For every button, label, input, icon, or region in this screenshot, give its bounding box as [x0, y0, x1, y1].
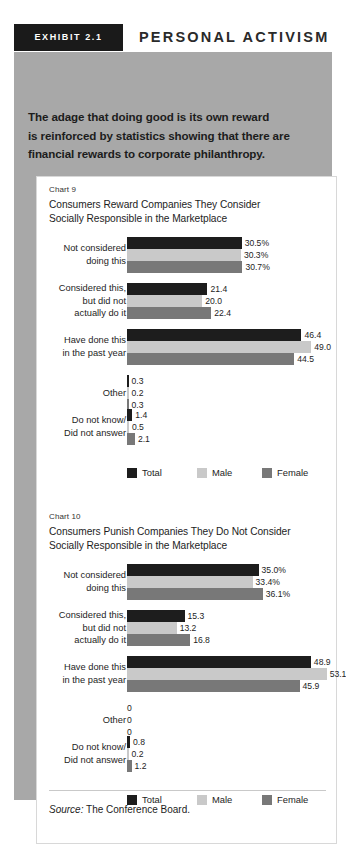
bar-value-label: 35.0% [259, 564, 286, 576]
chart-title-line-2: Socially Responsible in the Marketplace [49, 539, 227, 554]
category-label-line: but did not [0, 295, 126, 308]
bar-value-label: 44.5 [294, 353, 314, 365]
bar-total [127, 564, 259, 576]
category-label: Do not know/Did not answer [0, 414, 126, 439]
bar-total [127, 283, 207, 295]
bar-male [127, 295, 202, 307]
source-divider [49, 790, 326, 791]
intro-text: The adage that doing good is its own rew… [28, 108, 328, 170]
category-label-line: Do not know/ [0, 741, 126, 754]
chart-title-line-2: Socially Responsible in the Marketplace [49, 212, 227, 227]
category-label-line: Considered this, [0, 282, 126, 295]
category-label: Not considereddoing this [0, 242, 126, 267]
bar-value-label: 22.4 [211, 307, 231, 319]
bar-value-label: 30.5% [242, 237, 269, 249]
category-label-line: actually do it [0, 307, 126, 320]
bar-value-label: 30.3% [241, 249, 268, 261]
category-label: Have done thisin the past year [0, 661, 126, 686]
category-label-line: in the past year [0, 347, 126, 360]
bar-value-label: 48.9 [311, 656, 331, 668]
bar-value-label: 30.7% [242, 261, 269, 273]
chart-title-line-1: Consumers Reward Companies They Consider [49, 198, 260, 213]
bar-total [127, 656, 311, 668]
legend-label: Total [142, 467, 162, 479]
legend-swatch-icon [262, 468, 272, 478]
bar-value-label: 46.4 [301, 329, 321, 341]
bar-female [127, 433, 135, 445]
bar-value-label: 1.4 [132, 409, 147, 421]
bar-value-label: 0 [127, 702, 132, 714]
bar-value-label: 16.8 [190, 634, 210, 646]
bar-value-label: 0 [127, 714, 132, 726]
bar-value-label: 1.2 [132, 760, 147, 772]
legend-label: Female [277, 467, 308, 479]
legend-label: Male [212, 794, 232, 806]
category-label-line: actually do it [0, 634, 126, 647]
category-label-line: Not considered [0, 242, 126, 255]
chart-title-line-1: Consumers Punish Companies They Do Not C… [49, 525, 291, 540]
category-label: Considered this,but did notactually do i… [0, 282, 126, 320]
bar-male [127, 668, 327, 680]
intro-line-3: financial rewards to corporate philanthr… [28, 145, 328, 164]
category-label-line: Do not know/ [0, 414, 126, 427]
bar-value-label: 36.1% [263, 588, 290, 600]
bar-value-label: 0.5 [129, 421, 144, 433]
source-text: The Conference Board. [83, 804, 190, 815]
chart-number: Chart 10 [49, 512, 80, 521]
bar-value-label: 15.3 [185, 610, 205, 622]
legend-swatch-icon [262, 795, 272, 805]
category-label: Do not know/Did not answer [0, 741, 126, 766]
chart-legend: TotalMaleFemale [37, 467, 338, 479]
category-label-line: in the past year [0, 674, 126, 687]
category-label-line: Have done this [0, 334, 126, 347]
bar-female [127, 261, 242, 273]
category-label-line: Not considered [0, 569, 126, 582]
bar-total [127, 329, 301, 341]
exhibit-badge: EXHIBIT 2.1 [14, 24, 123, 51]
category-label: Not considereddoing this [0, 569, 126, 594]
bar-value-label: 45.9 [300, 680, 320, 692]
bar-female [127, 680, 300, 692]
category-label-line: Have done this [0, 661, 126, 674]
category-label-line: Other [0, 387, 126, 400]
category-label-line: Considered this, [0, 609, 126, 622]
bar-value-label: 0.3 [129, 375, 144, 387]
bar-male [127, 576, 253, 588]
bar-value-label: 0.2 [129, 387, 144, 399]
category-label-line: but did not [0, 622, 126, 635]
bar-male [127, 341, 311, 353]
exhibit-badge-label: EXHIBIT 2.1 [14, 24, 123, 51]
category-label-line: Other [0, 714, 126, 727]
bar-value-label: 0.8 [130, 736, 145, 748]
intro-line-1: The adage that doing good is its own rew… [28, 108, 328, 127]
legend-swatch-icon [197, 795, 207, 805]
category-label-line: doing this [0, 255, 126, 268]
bar-female [127, 353, 294, 365]
bar-female [127, 307, 211, 319]
bar-value-label: 20.0 [202, 295, 222, 307]
bar-value-label: 33.4% [253, 576, 280, 588]
exhibit-header: EXHIBIT 2.1 PERSONAL ACTIVISM [14, 24, 332, 52]
bar-male [127, 622, 177, 634]
category-label-line: doing this [0, 582, 126, 595]
legend-label: Female [277, 794, 308, 806]
bar-total [127, 610, 185, 622]
category-label: Other [0, 387, 126, 400]
source-note: Source: The Conference Board. [49, 803, 190, 817]
category-label-line: Did not answer [0, 427, 126, 440]
bar-value-label: 49.0 [311, 341, 331, 353]
bar-female [127, 634, 190, 646]
charts-card: Chart 9Consumers Reward Companies They C… [36, 176, 337, 844]
legend-swatch-icon [197, 468, 207, 478]
legend-label: Male [212, 467, 232, 479]
bar-value-label: 53.1 [327, 668, 346, 680]
category-label-line: Did not answer [0, 754, 126, 767]
bar-value-label: 13.2 [177, 622, 197, 634]
intro-line-2: is reinforced by statistics showing that… [28, 127, 328, 146]
bar-value-label: 21.4 [207, 283, 227, 295]
source-label: Source: [49, 804, 83, 815]
category-label: Have done thisin the past year [0, 334, 126, 359]
chart-number: Chart 9 [49, 185, 76, 194]
bar-total [127, 237, 242, 249]
